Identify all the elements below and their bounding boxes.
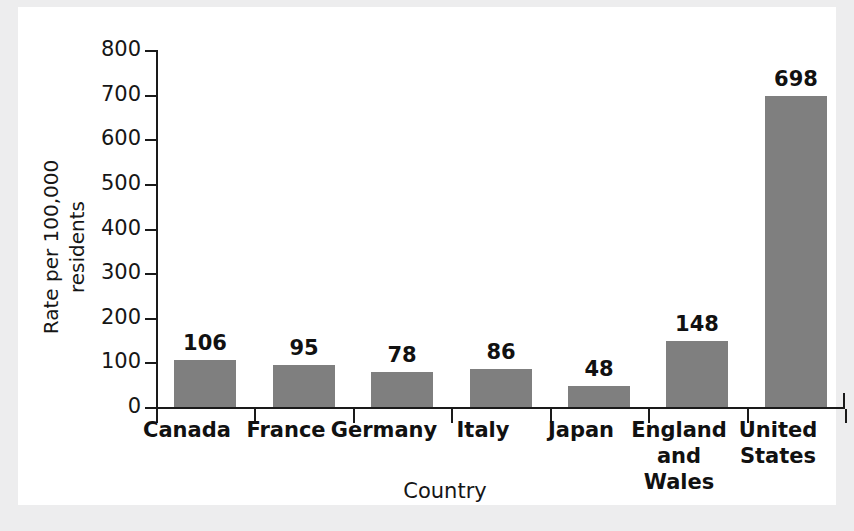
bar[interactable] <box>568 386 630 407</box>
y-axis-tick-label: 800 <box>101 37 141 61</box>
y-axis-tick-mark <box>145 139 156 141</box>
bar-value-label: 148 <box>647 313 747 335</box>
y-axis-tick-mark <box>145 184 156 186</box>
x-axis-spine <box>156 407 845 409</box>
y-axis-tick-label: 0 <box>128 394 141 418</box>
y-axis-tick-mark <box>145 362 156 364</box>
y-axis-tick-mark <box>145 50 156 52</box>
plot-area: 8007006005004003002001000 10695788648148… <box>156 50 845 409</box>
y-axis-tick-label: 200 <box>101 305 141 329</box>
y-axis-title: Rate per 100,000 residents <box>36 162 92 332</box>
y-axis-tick-label: 400 <box>101 216 141 240</box>
chart-page: Rate per 100,000 residents 8007006005004… <box>0 0 854 531</box>
y-axis-tick-label: 300 <box>101 260 141 284</box>
bar-value-label: 698 <box>746 68 846 90</box>
bar[interactable] <box>470 369 532 407</box>
x-axis-title: Country <box>18 479 854 503</box>
y-axis-tick-mark <box>145 318 156 320</box>
y-axis-tick-mark <box>145 95 156 97</box>
bar-value-label: 95 <box>254 337 354 359</box>
x-axis-category-label: United States <box>718 417 838 469</box>
bar[interactable] <box>765 96 827 407</box>
bar-value-label: 48 <box>549 358 649 380</box>
bar[interactable] <box>174 360 236 407</box>
x-axis-end-cap <box>843 393 845 409</box>
y-axis-tick-label: 500 <box>101 171 141 195</box>
bar[interactable] <box>273 365 335 407</box>
bar-value-label: 86 <box>451 341 551 363</box>
bar[interactable] <box>371 372 433 407</box>
bar-value-label: 106 <box>155 332 255 354</box>
figure-panel: Rate per 100,000 residents 8007006005004… <box>18 7 836 505</box>
bar-value-label: 78 <box>352 344 452 366</box>
bar[interactable] <box>666 341 728 407</box>
y-axis-spine <box>156 50 158 409</box>
y-axis-tick-label: 700 <box>101 82 141 106</box>
y-axis-tick-mark <box>145 407 156 409</box>
x-axis-tick-mark <box>845 409 847 423</box>
y-axis-title-text: Rate per 100,000 residents <box>38 157 90 337</box>
y-axis-tick-label: 600 <box>101 126 141 150</box>
y-axis-tick-mark <box>145 229 156 231</box>
y-axis-tick-mark <box>145 273 156 275</box>
y-axis-tick-label: 100 <box>101 349 141 373</box>
